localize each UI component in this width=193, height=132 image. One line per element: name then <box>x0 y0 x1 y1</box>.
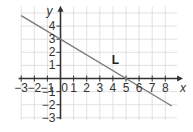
x-tick-label: 5 <box>123 81 130 95</box>
y-tick-label: 1 <box>49 58 56 72</box>
x-tick-label: 2 <box>83 81 90 95</box>
y-axis-label: y <box>46 4 54 18</box>
chart: −3−2−1012345678−3−2−11234xyL <box>0 0 193 132</box>
x-tick-label: 7 <box>149 81 156 95</box>
x-tick-label: 3 <box>96 81 103 95</box>
y-tick-label: −3 <box>42 111 56 125</box>
line-annotation-label: L <box>112 53 119 67</box>
x-tick-label: 1 <box>70 81 77 95</box>
x-tick-label: −2 <box>27 81 41 95</box>
y-tick-label: 4 <box>49 19 56 33</box>
x-tick-label: −3 <box>14 81 28 95</box>
y-tick-label: −2 <box>42 98 56 112</box>
y-tick-label: −1 <box>42 85 56 99</box>
x-tick-label: 6 <box>136 81 143 95</box>
y-axis-arrow-icon <box>58 6 64 12</box>
x-tick-label: 4 <box>110 81 117 95</box>
labels: −3−2−1012345678−3−2−11234xyL <box>14 4 187 125</box>
x-tick-label: 0 <box>61 81 68 95</box>
x-tick-label: 8 <box>162 81 169 95</box>
y-tick-label: 3 <box>49 32 56 46</box>
x-axis-label: x <box>179 81 187 95</box>
y-tick-label: 2 <box>49 45 56 59</box>
